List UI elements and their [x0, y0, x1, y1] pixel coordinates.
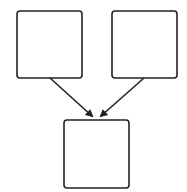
node-top-right	[112, 11, 177, 78]
arrow-top-right-to-bottom	[101, 78, 144, 116]
diagram-canvas	[0, 0, 187, 192]
arrow-top-left-to-bottom	[50, 78, 92, 116]
node-bottom	[64, 120, 129, 188]
node-top-left	[17, 11, 82, 78]
